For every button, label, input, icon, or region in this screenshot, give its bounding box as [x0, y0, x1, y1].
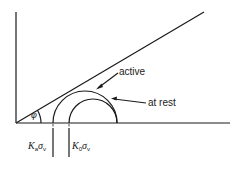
phi-angle-arc	[38, 110, 42, 123]
k0-sigma-subscript: v	[87, 146, 90, 152]
active-label: active	[119, 67, 145, 77]
k0-sigma-label: K0σv	[72, 141, 90, 152]
phi-label: φ	[31, 111, 37, 120]
ka-k: K	[28, 140, 35, 151]
k0-k: K	[72, 140, 79, 151]
at-rest-arrowhead-icon	[111, 97, 117, 101]
ka-sigma-label: Kaσv	[28, 141, 46, 152]
at-rest-leader-line	[114, 99, 146, 103]
at-rest-label: at rest	[148, 98, 176, 108]
ka-sigma-subscript: v	[43, 146, 46, 152]
